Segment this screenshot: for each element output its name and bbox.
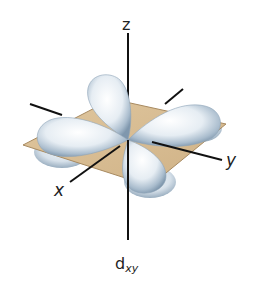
z-axis-label: z (122, 15, 130, 34)
orbital-name-label: dxy (115, 254, 139, 275)
y-axis-back (165, 89, 183, 104)
x-axis-label: x (53, 180, 65, 200)
x-axis-back (30, 104, 62, 115)
dxy-orbital-diagram: z x y dxy (0, 0, 262, 283)
orbital-name-main: d (115, 254, 125, 273)
orbital-name-subscript: xy (124, 262, 139, 275)
y-axis-label: y (225, 150, 237, 170)
